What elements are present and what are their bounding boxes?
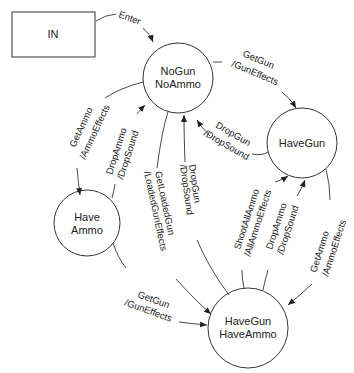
node-havegun-label: HaveGun xyxy=(279,137,325,149)
edge-getloadedgun: GetLoadedGun /LoadedGunEffects xyxy=(142,112,211,314)
node-nogun-noammo-label-1: NoGun xyxy=(161,65,196,77)
node-nogun-noammo-label-2: NoAmmo xyxy=(155,78,201,90)
node-in: IN xyxy=(12,12,95,57)
edge-getgun-to-havegun: GetGun /GunEffects xyxy=(213,48,296,108)
node-haveammo-label-2: Ammo xyxy=(71,224,103,236)
edge-dropgun-from-havegun: DropGun /DropSound xyxy=(197,119,268,162)
state-diagram: IN NoGun NoAmmo HaveGun Have Ammo HaveGu… xyxy=(0,0,354,373)
edge-dropammo-from-haveammo: DropAmmo /DropSound xyxy=(103,105,145,198)
node-havegun: HaveGun xyxy=(267,108,337,178)
node-nogun-noammo: NoGun NoAmmo xyxy=(143,43,213,113)
node-havegun-haveammo-label-1: HaveGun xyxy=(225,315,271,327)
node-in-label: IN xyxy=(48,28,59,40)
edge-getammo-to-both: GetAmmo /AmmoEffects xyxy=(288,169,348,305)
node-haveammo: Have Ammo xyxy=(54,190,120,256)
edge-getgun-to-both: GetGun /GunEffects xyxy=(113,243,207,325)
edge-enter-label: Enter xyxy=(117,9,142,27)
node-haveammo-label-1: Have xyxy=(74,211,100,223)
edge-enter: Enter xyxy=(96,9,153,42)
node-havegun-haveammo-label-2: HaveAmmo xyxy=(219,328,276,340)
node-havegun-haveammo: HaveGun HaveAmmo xyxy=(208,288,288,368)
